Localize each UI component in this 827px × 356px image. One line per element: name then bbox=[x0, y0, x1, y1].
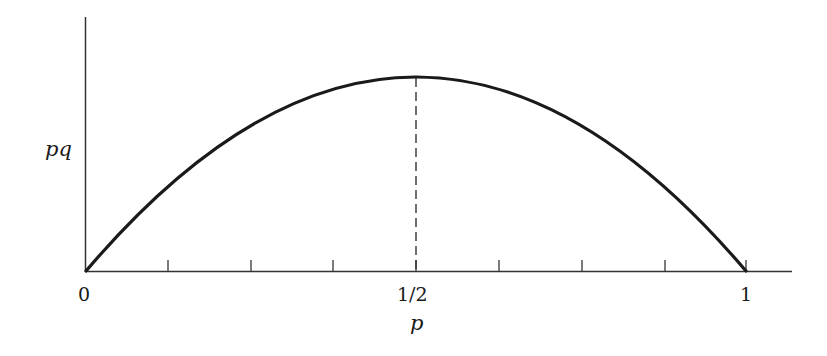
x-tick-label-half: 1/2 bbox=[397, 283, 428, 305]
x-tick-label-1: 1 bbox=[740, 283, 752, 305]
x-axis-label: p bbox=[410, 311, 423, 335]
x-tick-label-0: 0 bbox=[78, 283, 90, 305]
x-ticks bbox=[168, 260, 746, 271]
y-axis-label: pq bbox=[45, 137, 72, 161]
